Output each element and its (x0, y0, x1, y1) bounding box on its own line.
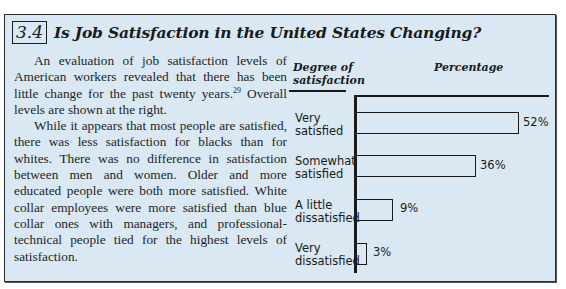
bar-very-satisfied (356, 112, 519, 134)
bar-somewhat-satisfied (356, 155, 476, 177)
sidebar-box: 3.4 Is Job Satisfaction in the United St… (4, 14, 556, 282)
category-axis-header: Degree of satisfaction (293, 61, 365, 87)
bar-value: 9% (400, 201, 418, 215)
footnote-ref: 29 (233, 85, 241, 94)
value-axis-header: Percentage (434, 61, 503, 74)
bar-a-little-dissatisfied (356, 199, 393, 221)
category-label: Somewhatsatisfied (295, 155, 356, 181)
bar-very-dissatisfied (356, 243, 367, 265)
paragraph-2: While it appears that most people are sa… (14, 118, 287, 265)
bar-value: 3% (373, 245, 391, 259)
body-text: An evaluation of job satisfaction levels… (14, 53, 287, 265)
section-number: 3.4 (12, 21, 47, 44)
value-header-rule (354, 95, 549, 97)
bar-value: 52% (523, 115, 549, 129)
bar-value: 36% (480, 158, 506, 172)
title-row: 3.4 Is Job Satisfaction in the United St… (12, 21, 481, 44)
paragraph-1: An evaluation of job satisfaction levels… (14, 53, 287, 118)
category-label: A littledissatisfied (295, 199, 360, 225)
category-label: Verydissatisfied (295, 242, 360, 268)
category-label: Verysatisfied (295, 112, 343, 138)
category-header-rule (289, 90, 346, 92)
box-title: Is Job Satisfaction in the United States… (54, 23, 481, 42)
